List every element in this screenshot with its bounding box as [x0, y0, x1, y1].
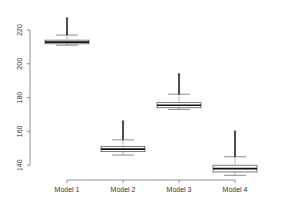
x-axis: Model 1Model 2Model 3Model 4: [55, 180, 248, 193]
y-axis: 140160180200220: [16, 24, 30, 171]
boxplot-chart: 140160180200220 Model 1Model 2Model 3Mod…: [0, 0, 286, 200]
y-tick-label: 180: [16, 92, 23, 104]
x-tick-label: Model 1: [55, 186, 80, 193]
y-tick-label: 160: [16, 125, 23, 137]
box-3: [157, 73, 201, 109]
y-tick-label: 220: [16, 24, 23, 36]
y-tick-label: 200: [16, 58, 23, 70]
box-1: [45, 17, 89, 45]
x-tick-label: Model 2: [111, 186, 136, 193]
box-4: [213, 131, 257, 176]
x-tick-label: Model 4: [223, 186, 248, 193]
x-tick-label: Model 3: [167, 186, 192, 193]
y-tick-label: 140: [16, 159, 23, 171]
boxes: [45, 17, 257, 175]
box-2: [101, 120, 145, 155]
